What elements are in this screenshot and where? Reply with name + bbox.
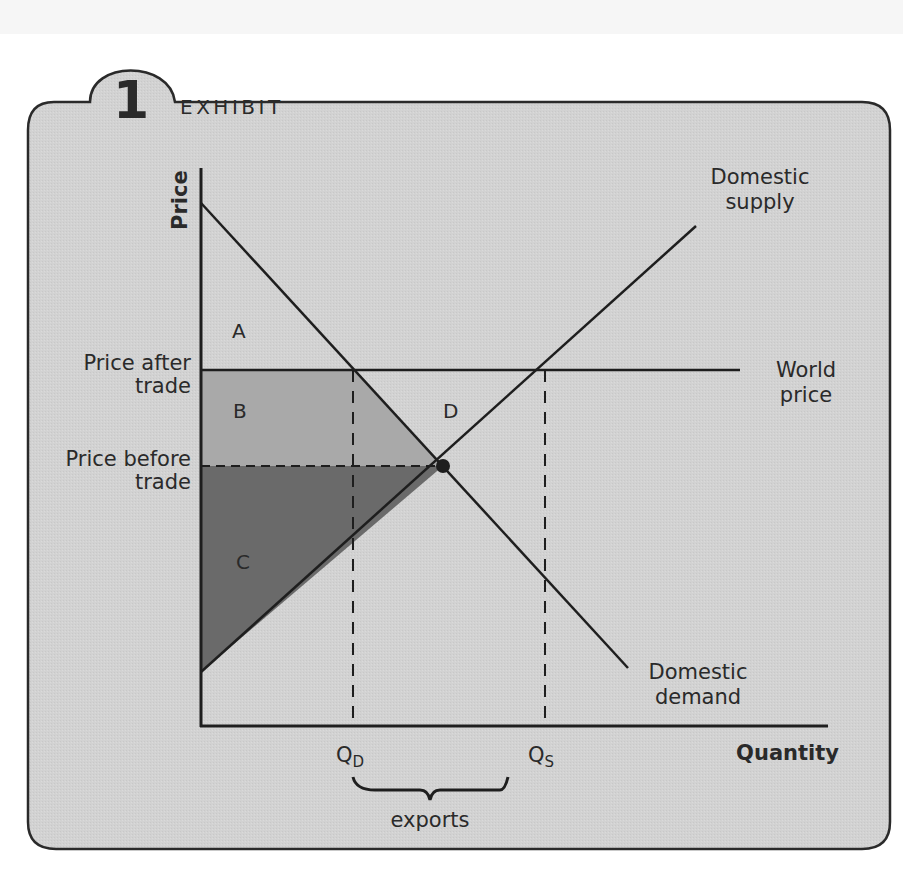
qs-label-main: Q (528, 743, 545, 767)
exhibit-label: EXHIBIT (180, 95, 284, 119)
region-c-label: C (236, 550, 250, 574)
domestic-supply-label-2: supply (725, 190, 794, 214)
equilibrium-point (436, 459, 450, 473)
price-before-trade-label-1: Price before (66, 447, 192, 471)
region-b-label: B (233, 399, 247, 423)
world-price-label-2: price (780, 383, 832, 407)
domestic-demand-label-2: demand (655, 685, 741, 709)
region-a-label: A (232, 319, 246, 343)
x-axis-label: Quantity (736, 741, 839, 765)
price-before-trade-label-2: trade (135, 470, 191, 494)
qd-label-main: Q (336, 743, 353, 767)
qs-label-sub: S (545, 753, 555, 771)
y-axis-label: Price (168, 170, 192, 230)
domestic-demand-label-1: Domestic (649, 660, 748, 684)
region-d-label: D (443, 399, 458, 423)
exports-label: exports (391, 808, 470, 832)
price-after-trade-label-1: Price after (83, 351, 191, 375)
domestic-supply-label-1: Domestic (711, 165, 810, 189)
exhibit-number: 1 (113, 70, 149, 130)
qd-label-sub: D (353, 753, 365, 771)
world-price-label-1: World (776, 358, 836, 382)
price-after-trade-label-2: trade (135, 374, 191, 398)
exhibit-figure: 1 EXHIBIT Price Price after trade Price … (0, 0, 903, 881)
